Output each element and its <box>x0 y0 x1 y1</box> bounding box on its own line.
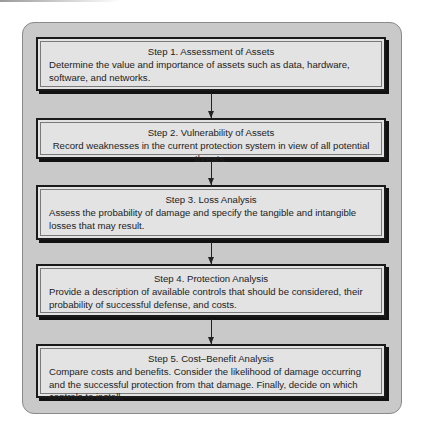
step-5-title: Step 5. Cost–Benefit Analysis <box>49 352 373 365</box>
step-5-description: Compare costs and benefits. Consider the… <box>49 366 373 404</box>
top-decorative-strip <box>0 0 120 2</box>
step-4-title: Step 4. Protection Analysis <box>49 272 373 285</box>
step-3-box: Step 3. Loss Analysis Assess the probabi… <box>36 185 386 240</box>
step-5-box: Step 5. Cost–Benefit Analysis Compare co… <box>36 344 386 398</box>
step-4-box: Step 4. Protection Analysis Provide a de… <box>36 264 386 317</box>
step-3-description: Assess the probability of damage and spe… <box>49 207 373 232</box>
arrow-down-icon <box>211 161 212 185</box>
arrow-down-icon <box>211 93 212 118</box>
step-2-title: Step 2. Vulnerability of Assets <box>49 126 373 139</box>
arrow-down-icon <box>211 319 212 344</box>
step-1-description: Determine the value and importance of as… <box>49 59 373 84</box>
arrow-down-icon <box>211 242 212 264</box>
step-1-box: Step 1. Assessment of Assets Determine t… <box>36 37 386 91</box>
step-4-description: Provide a description of available contr… <box>49 286 373 311</box>
step-1-title: Step 1. Assessment of Assets <box>49 45 373 58</box>
step-3-title: Step 3. Loss Analysis <box>49 193 373 206</box>
step-2-box: Step 2. Vulnerability of Assets Record w… <box>36 118 386 159</box>
